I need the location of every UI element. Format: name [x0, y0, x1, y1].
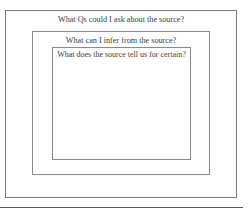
inner-box-label: What does the source tell us for certain… [53, 50, 190, 60]
outer-box-questions: What Qs could I ask about the source? Wh… [5, 10, 237, 198]
middle-box-inference: What can I infer from the source? What d… [32, 31, 210, 175]
outer-box-label: What Qs could I ask about the source? [6, 15, 236, 25]
inner-box-certain: What does the source tell us for certain… [52, 47, 191, 160]
middle-box-label: What can I infer from the source? [33, 36, 209, 46]
bottom-divider-line [0, 207, 243, 208]
